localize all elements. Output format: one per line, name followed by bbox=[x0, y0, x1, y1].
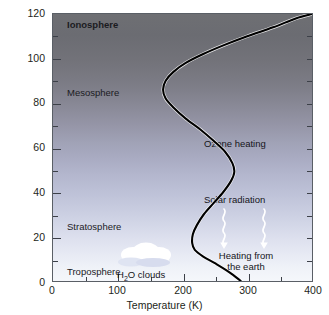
y-tick-label-60: 60 bbox=[23, 142, 45, 152]
atmosphere-temperature-profile-figure: 120 100 80 60 40 20 0 Altitude (km) bbox=[0, 0, 329, 315]
x-axis-title: Temperature (K) bbox=[0, 299, 329, 311]
plot-area: Ionosphere Mesosphere Stratosphere Tropo… bbox=[52, 13, 313, 282]
y-tick-label-100: 100 bbox=[23, 53, 45, 63]
x-tick-label-0: 0 bbox=[32, 284, 72, 296]
x-tick-label-200: 200 bbox=[163, 284, 203, 296]
x-tick-label-300: 300 bbox=[228, 284, 268, 296]
x-tick-label-400: 400 bbox=[293, 284, 329, 296]
x-tick-label-100: 100 bbox=[97, 284, 137, 296]
y-tick-label-80: 80 bbox=[23, 97, 45, 107]
y-tick-label-120: 120 bbox=[23, 8, 45, 18]
temperature-profile-curve bbox=[53, 14, 312, 281]
y-tick-label-40: 40 bbox=[23, 187, 45, 197]
curve-line bbox=[163, 14, 312, 281]
curve-highlight bbox=[163, 14, 312, 281]
y-tick-label-20: 20 bbox=[23, 232, 45, 242]
